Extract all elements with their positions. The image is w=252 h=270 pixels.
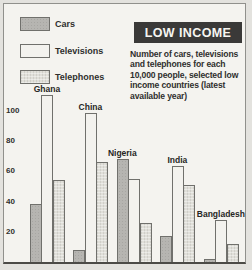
bar-bangladesh-telephones <box>227 244 239 262</box>
country-label-bangladesh: Bangladesh <box>197 209 245 219</box>
y-tick-label: 40 <box>6 197 24 206</box>
country-label-nigeria: Nigeria <box>108 148 137 158</box>
bar-ghana-televisions <box>41 95 53 262</box>
bar-india-telephones <box>183 185 195 262</box>
bar-bangladesh-cars <box>204 259 216 262</box>
bar-bangladesh-televisions <box>215 220 227 262</box>
country-label-china: China <box>79 102 103 112</box>
country-label-ghana: Ghana <box>34 84 60 94</box>
bar-china-cars <box>73 250 85 262</box>
y-tick-label: 60 <box>6 166 24 175</box>
bar-india-cars <box>160 236 172 262</box>
chart-panel: 20406080100GhanaChinaNigeriaIndiaBanglad… <box>0 0 252 270</box>
bar-nigeria-telephones <box>140 223 152 262</box>
chart-card: 20406080100GhanaChinaNigeriaIndiaBanglad… <box>3 3 246 264</box>
y-tick-label: 20 <box>6 227 24 236</box>
chart-description: Number of cars, televisions and telephon… <box>130 49 248 101</box>
y-tick-label: 80 <box>6 136 24 145</box>
y-tick-label: 100 <box>6 106 24 115</box>
bar-china-telephones <box>96 162 108 262</box>
bar-china-televisions <box>85 113 97 262</box>
chart-title-badge: LOW INCOME <box>134 22 242 43</box>
legend-label-telephones: Telephones <box>55 72 104 82</box>
bar-ghana-cars <box>30 204 42 262</box>
description-line: and telephones for each <box>130 59 248 69</box>
bar-india-televisions <box>172 166 184 262</box>
country-label-india: India <box>167 155 187 165</box>
bar-ghana-telephones <box>53 180 65 262</box>
description-line: income countries (latest <box>130 80 248 90</box>
bar-nigeria-cars <box>117 159 129 262</box>
legend-label-televisions: Televisions <box>55 46 103 56</box>
description-line: Number of cars, televisions <box>130 49 248 59</box>
cars-swatch-icon <box>20 17 50 31</box>
telephones-swatch-icon <box>20 70 50 84</box>
bar-nigeria-televisions <box>128 179 140 262</box>
description-line: 10,000 people, selected low <box>130 70 248 80</box>
legend-label-cars: Cars <box>55 19 75 29</box>
televisions-swatch-icon <box>20 44 50 58</box>
description-line: available year) <box>130 91 248 101</box>
